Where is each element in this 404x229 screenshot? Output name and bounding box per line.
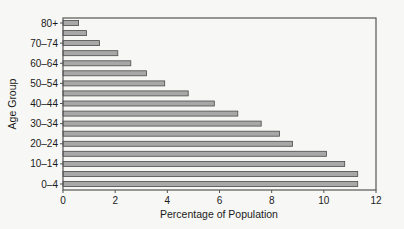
bar-20–24	[63, 141, 293, 146]
x-tick-label: 4	[165, 195, 171, 206]
y-tick-label: 20–24	[30, 138, 58, 149]
x-axis-label: Percentage of Population	[160, 208, 278, 220]
bar-40–44	[63, 101, 214, 106]
y-tick-label: 40–44	[30, 98, 58, 109]
y-tick-label: 30–34	[30, 118, 58, 129]
bar-65–69	[63, 51, 118, 56]
bar-30–34	[63, 121, 261, 126]
y-tick-label: 60–64	[30, 58, 58, 69]
y-axis-label: Age Group	[6, 78, 18, 129]
x-axis-ticks: 024681012	[60, 190, 382, 206]
x-tick-label: 6	[217, 195, 223, 206]
bar-75–79	[63, 31, 87, 36]
bar-80+	[63, 21, 79, 26]
x-tick-label: 12	[370, 195, 382, 206]
bar-15–19	[63, 151, 326, 156]
bar-0–4	[63, 182, 358, 187]
bar-25–29	[63, 131, 280, 136]
population-bar-chart: 024681012 0–410–1420–2430–3440–4450–5460…	[0, 0, 404, 229]
y-tick-label: 10–14	[30, 158, 58, 169]
bar-50–54	[63, 81, 165, 86]
y-tick-label: 70–74	[30, 38, 58, 49]
bars-group	[63, 21, 358, 187]
bar-60–64	[63, 61, 131, 66]
x-tick-label: 8	[269, 195, 275, 206]
y-tick-label: 0–4	[41, 179, 58, 190]
bar-55–59	[63, 71, 147, 76]
bar-45–49	[63, 91, 188, 96]
bar-10–14	[63, 161, 345, 166]
y-axis-ticks: 0–410–1420–2430–3440–4450–5460–6470–7480…	[30, 18, 63, 190]
x-tick-label: 2	[112, 195, 118, 206]
y-tick-label: 80+	[41, 18, 58, 29]
y-tick-label: 50–54	[30, 78, 58, 89]
x-tick-label: 0	[60, 195, 66, 206]
bar-70–74	[63, 41, 100, 46]
bar-35–39	[63, 111, 238, 116]
x-tick-label: 10	[318, 195, 330, 206]
bar-5–9	[63, 171, 358, 176]
